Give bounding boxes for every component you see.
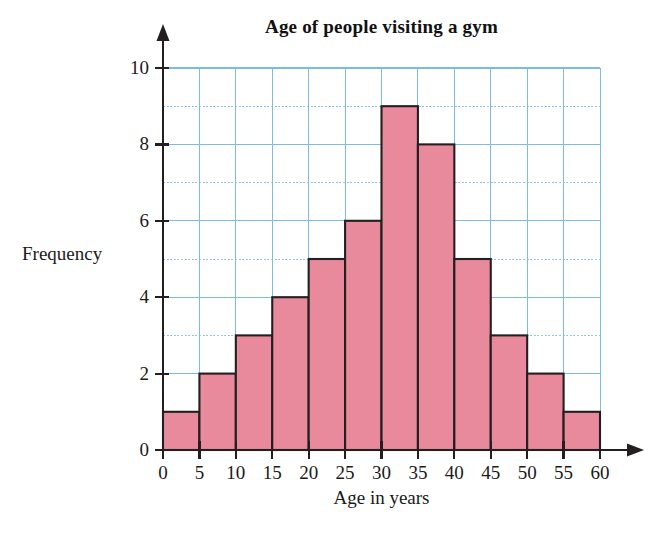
y-axis-arrowhead — [157, 24, 170, 41]
histogram-bar — [491, 335, 527, 450]
y-tick-label: 4 — [140, 286, 150, 308]
x-tick-label: 55 — [554, 462, 573, 484]
x-tick-label: 40 — [445, 462, 464, 484]
x-tick-label: 15 — [263, 462, 282, 484]
histogram-bar — [163, 412, 199, 450]
histogram-bar — [564, 412, 600, 450]
x-axis-arrowhead — [627, 444, 644, 457]
histogram-bar — [418, 144, 454, 450]
x-tick-label: 35 — [408, 462, 427, 484]
x-tick-label: 0 — [158, 462, 168, 484]
x-tick-label: 60 — [591, 462, 610, 484]
bars-group — [163, 106, 600, 450]
histogram-bar — [236, 335, 272, 450]
y-tick-label: 2 — [140, 363, 150, 385]
histogram-bar — [199, 374, 235, 450]
x-tick-label: 30 — [372, 462, 391, 484]
y-tick-label: 8 — [140, 133, 150, 155]
y-tick-label: 0 — [140, 439, 150, 461]
histogram-bar — [272, 297, 308, 450]
y-tick-label: 6 — [140, 210, 150, 232]
histogram-bar — [345, 221, 381, 450]
x-tick-label: 10 — [226, 462, 245, 484]
x-tick-label: 25 — [336, 462, 355, 484]
histogram-bar — [454, 259, 490, 450]
histogram-bar — [382, 106, 418, 450]
x-tick-label: 45 — [481, 462, 500, 484]
histogram-bar — [309, 259, 345, 450]
plot-area — [0, 0, 668, 535]
x-tick-label: 50 — [518, 462, 537, 484]
histogram-chart: Age of people visiting a gym Frequency A… — [0, 0, 668, 535]
x-tick-label: 5 — [195, 462, 205, 484]
y-tick-label: 10 — [130, 57, 149, 79]
histogram-bar — [527, 374, 563, 450]
x-tick-label: 20 — [299, 462, 318, 484]
